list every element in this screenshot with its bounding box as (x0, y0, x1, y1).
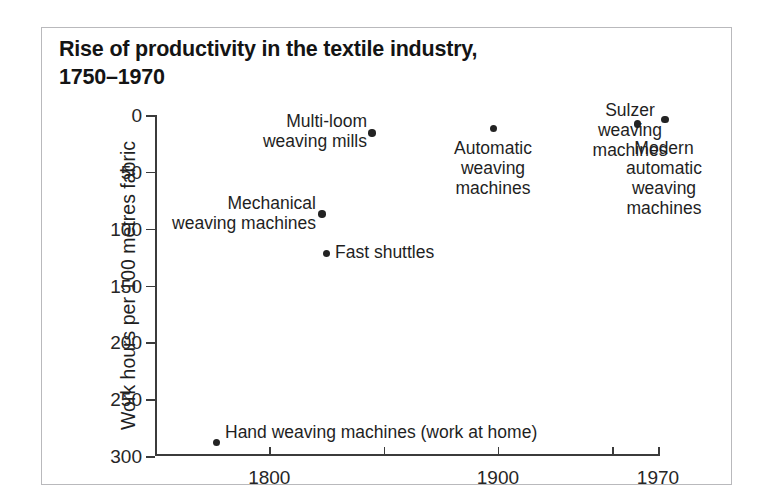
plot-area: Work hours per 100 metres fabric 0 50 10… (155, 115, 658, 456)
data-point-fast-shuttles[interactable] (323, 250, 331, 258)
y-tick-label: 150 (110, 276, 142, 295)
y-tick-mark (146, 286, 155, 288)
annotation-automatic: Automatic weaving machines (454, 139, 532, 199)
data-point-automatic[interactable] (490, 125, 498, 133)
y-axis-spine (155, 115, 157, 456)
data-point-multi-loom[interactable] (368, 129, 376, 137)
y-tick-label: 50 (121, 162, 142, 181)
y-tick-label: 250 (110, 390, 142, 409)
annotation-fast-shuttles: Fast shuttles (335, 243, 434, 263)
x-tick-mark (498, 447, 500, 456)
y-tick-label: 300 (110, 447, 142, 466)
y-tick-label: 100 (110, 219, 142, 238)
y-tick-label: 200 (110, 333, 142, 352)
x-tick-label: 1900 (477, 468, 519, 487)
y-tick-mark (146, 172, 155, 174)
annotation-mechanical: Mechanical weaving machines (172, 194, 316, 234)
annotation-hand-weaving: Hand weaving machines (work at home) (225, 423, 537, 443)
x-tick-mark (269, 447, 271, 456)
data-point-mechanical[interactable] (318, 210, 326, 218)
data-point-hand-weaving[interactable] (213, 439, 221, 447)
annotation-multi-loom: Multi-loom weaving mills (263, 112, 367, 152)
y-tick-mark (146, 342, 155, 344)
figure-frame: Rise of productivity in the textile indu… (41, 27, 732, 485)
y-tick-label: 0 (131, 106, 142, 125)
y-tick-mark (146, 229, 155, 231)
annotation-modern-automatic: Modern automatic weaving machines (626, 139, 702, 219)
chart-title: Rise of productivity in the textile indu… (59, 36, 679, 91)
x-tick-label: 1800 (248, 468, 290, 487)
x-tick-mark (612, 447, 614, 456)
y-tick-mark (146, 399, 155, 401)
x-axis-spine (155, 454, 658, 456)
y-tick-mark (146, 115, 155, 117)
y-tick-mark (146, 456, 155, 458)
x-tick-label: 1970 (637, 468, 679, 487)
x-tick-mark (658, 447, 660, 456)
x-tick-mark (384, 447, 386, 456)
